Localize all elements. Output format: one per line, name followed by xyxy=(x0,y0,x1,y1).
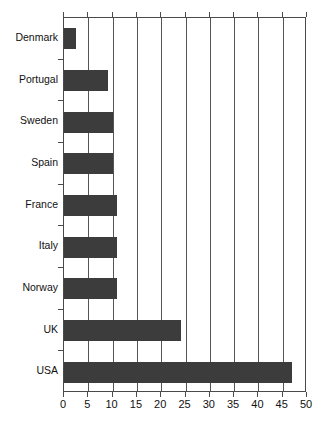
y-axis-label: USA xyxy=(0,365,58,376)
x-axis-tick xyxy=(209,12,210,17)
x-axis-tick-label: 5 xyxy=(84,399,90,410)
x-axis-tick xyxy=(136,392,137,397)
x-axis-tick xyxy=(306,392,307,397)
x-axis-tick xyxy=(185,12,186,17)
y-axis-label: Portugal xyxy=(0,74,58,85)
y-axis-tick xyxy=(58,225,63,226)
x-axis-tick-label: 35 xyxy=(227,399,239,410)
y-axis-tick xyxy=(58,184,63,185)
y-axis-label: Italy xyxy=(0,240,58,251)
y-axis-tick xyxy=(58,100,63,101)
y-axis-tick xyxy=(58,309,63,310)
y-axis-label: Sweden xyxy=(0,115,58,126)
x-axis-tick xyxy=(87,12,88,17)
x-axis-tick-label: 40 xyxy=(251,399,263,410)
x-axis-tick-label: 10 xyxy=(105,399,117,410)
x-axis-tick-label: 50 xyxy=(300,399,312,410)
gridline xyxy=(258,18,259,391)
plot-area xyxy=(63,17,306,392)
bar-usa xyxy=(64,362,292,383)
x-axis-tick-label: 45 xyxy=(276,399,288,410)
x-axis-tick xyxy=(233,12,234,17)
bar-spain xyxy=(64,153,113,174)
bar-chart: Denmark Portugal Sweden Spain France Ita… xyxy=(0,0,326,428)
x-axis-tick xyxy=(185,392,186,397)
bar-france xyxy=(64,195,117,216)
x-axis-tick-label: 25 xyxy=(178,399,190,410)
bar-norway xyxy=(64,278,117,299)
gridline xyxy=(283,18,284,391)
x-axis-tick xyxy=(233,392,234,397)
y-axis-tick xyxy=(58,267,63,268)
x-axis-tick xyxy=(112,12,113,17)
y-axis-tick xyxy=(58,350,63,351)
x-axis-tick xyxy=(63,392,64,397)
y-axis-label: France xyxy=(0,199,58,210)
x-axis-tick xyxy=(160,392,161,397)
y-axis-label: UK xyxy=(0,324,58,335)
x-axis-tick xyxy=(160,12,161,17)
gridline xyxy=(210,18,211,391)
gridline xyxy=(234,18,235,391)
bar-uk xyxy=(64,320,181,341)
y-axis-label: Denmark xyxy=(0,32,58,43)
x-axis-tick-label: 30 xyxy=(203,399,215,410)
x-axis-tick xyxy=(282,12,283,17)
bar-denmark xyxy=(64,28,76,49)
x-axis-tick-label: 15 xyxy=(130,399,142,410)
x-axis-tick xyxy=(87,392,88,397)
y-axis-label: Spain xyxy=(0,157,58,168)
x-axis-tick xyxy=(136,12,137,17)
y-axis-tick xyxy=(58,142,63,143)
x-axis-tick xyxy=(306,12,307,17)
x-axis-tick-label: 20 xyxy=(154,399,166,410)
x-axis-tick-label: 0 xyxy=(60,399,66,410)
y-axis-tick xyxy=(58,59,63,60)
x-axis-tick xyxy=(112,392,113,397)
bar-sweden xyxy=(64,112,113,133)
x-axis-tick xyxy=(63,12,64,17)
x-axis-tick xyxy=(257,12,258,17)
gridline xyxy=(186,18,187,391)
y-axis-label: Norway xyxy=(0,282,58,293)
x-axis-tick xyxy=(282,392,283,397)
x-axis-tick xyxy=(209,392,210,397)
bar-portugal xyxy=(64,70,108,91)
bar-italy xyxy=(64,237,117,258)
x-axis-tick xyxy=(257,392,258,397)
